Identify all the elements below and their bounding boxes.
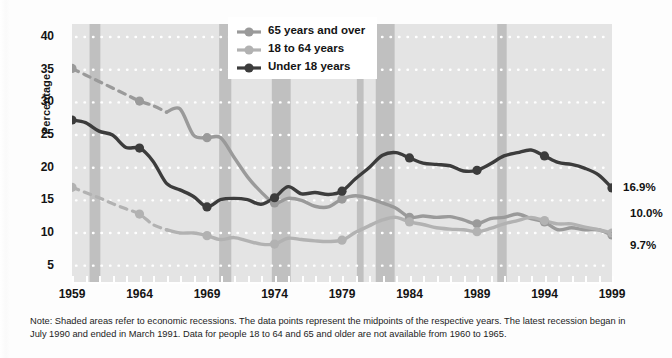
x-axis-tick <box>302 276 304 282</box>
x-axis-tick <box>180 276 182 282</box>
x-axis-tick <box>396 276 398 282</box>
x-axis-tick <box>437 276 439 282</box>
series-end-label: 9.7% <box>630 239 656 251</box>
y-axis-tick-label: 35 <box>18 63 54 75</box>
legend-marker-icon <box>236 60 262 72</box>
x-axis-tick-label: 1979 <box>319 287 365 301</box>
x-axis-tick <box>315 276 317 282</box>
y-axis-tick-label: 25 <box>18 128 54 140</box>
x-axis-tick <box>329 276 331 282</box>
x-axis-tick <box>167 276 169 282</box>
x-axis-tick-label: 1969 <box>184 287 230 301</box>
legend-marker-icon <box>236 24 262 36</box>
x-axis-tick <box>113 276 115 282</box>
x-axis-tick <box>153 276 155 282</box>
x-axis-tick <box>342 276 344 285</box>
chart-footnote: Note: Shaded areas refer to economic rec… <box>30 315 642 341</box>
x-axis-tick <box>464 276 466 282</box>
chart-figure: Percentage 510152025303540 1959196419691… <box>0 0 672 358</box>
x-axis-tick <box>261 276 263 282</box>
legend-marker-icon <box>236 42 262 54</box>
x-axis-tick-label: 1989 <box>454 287 500 301</box>
x-axis-tick <box>531 276 533 282</box>
x-axis-tick <box>477 276 479 285</box>
x-axis-tick <box>612 276 614 285</box>
legend-item[interactable]: Under 18 years <box>236 58 365 74</box>
series-markers <box>72 64 612 249</box>
x-axis-tick <box>423 276 425 282</box>
y-axis-tick-label: 5 <box>18 259 54 271</box>
x-axis-tick <box>369 276 371 282</box>
x-axis-tick <box>410 276 412 285</box>
x-axis-tick <box>248 276 250 282</box>
x-axis-tick-label: 1974 <box>252 287 298 301</box>
x-axis-tick <box>99 276 101 282</box>
legend-item-label: 18 to 64 years <box>268 42 344 54</box>
x-axis-tick <box>207 276 209 285</box>
x-axis-tick-label: 1999 <box>589 287 635 301</box>
chart-legend: 65 years and over18 to 64 yearsUnder 18 … <box>228 17 377 79</box>
y-axis-tick-label: 10 <box>18 226 54 238</box>
x-axis-tick <box>194 276 196 282</box>
legend-item-label: 65 years and over <box>268 24 365 36</box>
x-axis-tick <box>221 276 223 282</box>
x-axis-tick <box>558 276 560 282</box>
y-axis-tick-label: 15 <box>18 193 54 205</box>
x-axis-tick <box>126 276 128 282</box>
legend-item[interactable]: 65 years and over <box>236 22 365 38</box>
x-axis-tick <box>491 276 493 282</box>
x-axis-tick <box>572 276 574 282</box>
y-axis-tick-label: 40 <box>18 30 54 42</box>
x-axis-tick <box>504 276 506 282</box>
legend-item-label: Under 18 years <box>268 60 350 72</box>
y-axis-tick-label: 20 <box>18 161 54 173</box>
series-end-label: 10.0% <box>630 207 663 219</box>
x-axis-tick <box>450 276 452 282</box>
x-axis-tick <box>518 276 520 282</box>
x-axis-tick <box>383 276 385 282</box>
x-axis-tick <box>275 276 277 285</box>
x-axis-tick-label: 1964 <box>117 287 163 301</box>
x-axis-tick-label: 1984 <box>387 287 433 301</box>
legend-item[interactable]: 18 to 64 years <box>236 40 365 56</box>
scan-edge-artifact <box>0 0 10 358</box>
series-lines <box>72 68 612 244</box>
x-axis-tick <box>234 276 236 282</box>
x-axis-tick-label: 1959 <box>49 287 95 301</box>
x-axis-tick-label: 1994 <box>522 287 568 301</box>
x-axis-tick <box>72 276 74 285</box>
x-axis-tick <box>288 276 290 282</box>
y-axis-tick-label: 30 <box>18 95 54 107</box>
x-axis-tick <box>585 276 587 282</box>
x-axis-tick <box>545 276 547 285</box>
x-axis-tick <box>356 276 358 282</box>
x-axis-tick <box>140 276 142 285</box>
x-axis-tick <box>599 276 601 282</box>
series-end-label: 16.9% <box>623 181 656 193</box>
x-axis-tick <box>86 276 88 282</box>
